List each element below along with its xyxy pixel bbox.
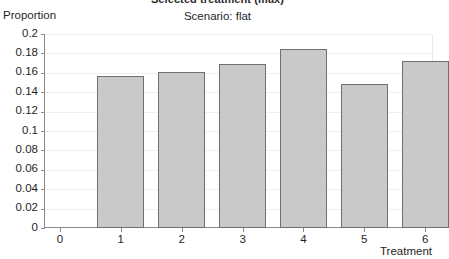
x-tick-label: 5 [349,233,379,245]
x-tick-mark [364,228,365,232]
y-tick-mark [41,228,45,229]
bar [280,49,327,228]
x-tick-mark [182,228,183,232]
y-tick-mark [41,53,45,54]
x-tick-label: 1 [106,233,136,245]
y-tick-label: 0.02 [0,201,38,213]
x-tick-label: 4 [288,233,318,245]
y-tick-mark [41,131,45,132]
y-tick-mark [41,92,45,93]
bar [97,76,144,228]
gridline [45,34,433,35]
bar [219,64,266,228]
x-tick-mark [60,228,61,232]
y-tick-mark [41,189,45,190]
y-tick-label: 0.1 [0,124,38,136]
gridline [45,53,433,54]
y-axis-label: Proportion [3,9,56,21]
y-tick-label: 0.18 [0,46,38,58]
y-tick-label: 0.08 [0,143,38,155]
chart-subtitle: Scenario: flat [0,10,435,22]
y-tick-mark [41,209,45,210]
x-tick-label: 2 [167,233,197,245]
y-tick-label: 0.04 [0,182,38,194]
y-tick-label: 0.12 [0,104,38,116]
x-axis-label: Treatment [380,245,432,257]
y-tick-label: 0.06 [0,162,38,174]
x-tick-mark [243,228,244,232]
x-tick-label: 3 [228,233,258,245]
x-tick-mark [425,228,426,232]
y-tick-label: 0.14 [0,85,38,97]
y-tick-label: 0.16 [0,65,38,77]
x-tick-label: 6 [410,233,440,245]
y-tick-mark [41,34,45,35]
y-tick-label: 0.2 [0,27,38,39]
bar [402,61,449,228]
y-tick-mark [41,73,45,74]
x-tick-label: 0 [45,233,75,245]
chart-title: Selected treatment (max) [0,0,435,7]
bar [341,84,388,228]
y-tick-label: 0 [0,221,38,233]
y-tick-mark [41,150,45,151]
x-tick-mark [121,228,122,232]
x-tick-mark [303,228,304,232]
y-tick-mark [41,170,45,171]
bar [158,72,205,228]
y-tick-mark [41,112,45,113]
